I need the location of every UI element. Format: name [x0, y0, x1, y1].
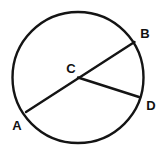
point-label-a: A: [12, 118, 22, 133]
point-label-d: D: [146, 98, 155, 113]
point-label-c: C: [66, 61, 76, 76]
geometry-canvas: A B C D: [0, 0, 164, 156]
circle-geometry-diagram: A B C D: [0, 0, 164, 156]
point-label-b: B: [140, 26, 149, 41]
